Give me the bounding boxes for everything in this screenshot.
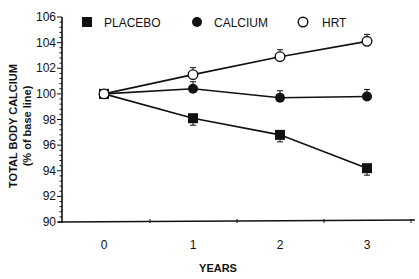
square-marker bbox=[275, 130, 285, 140]
y-tick-label: 94 bbox=[43, 164, 57, 178]
open-circle-marker bbox=[298, 17, 308, 27]
series-hrt bbox=[99, 34, 372, 98]
legend-item-placebo: PLACEBO bbox=[82, 16, 161, 30]
x-tick-label: 2 bbox=[277, 238, 284, 252]
open-circle-marker bbox=[99, 89, 109, 99]
y-axis: 9092949698100102104106 bbox=[36, 10, 62, 229]
x-axis-title: YEARS bbox=[199, 262, 237, 274]
open-circle-marker bbox=[275, 52, 285, 62]
square-marker bbox=[188, 113, 198, 123]
legend-item-calcium: CALCIUM bbox=[192, 16, 268, 30]
y-tick-label: 98 bbox=[43, 113, 57, 127]
series-calcium bbox=[99, 82, 372, 103]
x-tick-label: 3 bbox=[364, 238, 371, 252]
x-tick-label: 1 bbox=[190, 238, 197, 252]
legend-label: CALCIUM bbox=[214, 16, 268, 30]
y-tick-label: 104 bbox=[36, 36, 56, 50]
y-tick-label: 92 bbox=[43, 189, 57, 203]
square-marker bbox=[362, 163, 372, 173]
y-axis-subtitle: (% of base line) bbox=[21, 85, 33, 166]
circle-marker bbox=[192, 17, 202, 27]
legend-label: HRT bbox=[322, 16, 347, 30]
y-tick-label: 96 bbox=[43, 138, 57, 152]
legend: PLACEBOCALCIUMHRT bbox=[82, 16, 347, 30]
legend-item-hrt: HRT bbox=[298, 16, 347, 30]
square-marker bbox=[82, 17, 92, 27]
legend-label: PLACEBO bbox=[104, 16, 161, 30]
circle-marker bbox=[362, 91, 372, 101]
y-tick-label: 90 bbox=[43, 215, 57, 229]
open-circle-marker bbox=[362, 37, 372, 47]
series-placebo bbox=[99, 89, 372, 175]
data-series bbox=[99, 34, 372, 175]
x-axis: 0123 bbox=[58, 219, 415, 252]
circle-marker bbox=[188, 84, 198, 94]
x-tick-label: 0 bbox=[101, 238, 108, 252]
circle-marker bbox=[275, 93, 285, 103]
y-tick-label: 100 bbox=[36, 87, 56, 101]
y-tick-label: 102 bbox=[36, 61, 56, 75]
open-circle-marker bbox=[188, 70, 198, 80]
line-chart: 9092949698100102104106 0123 PLACEBOCALCI… bbox=[0, 0, 419, 279]
y-axis-title: TOTAL BODY CALCIUM bbox=[7, 64, 19, 188]
y-tick-label: 106 bbox=[36, 10, 56, 24]
